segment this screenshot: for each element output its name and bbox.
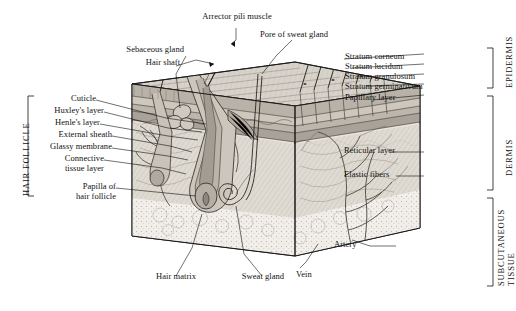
label-elastic-fibers: Elastic fibers xyxy=(344,170,389,180)
leader-arrowheads xyxy=(209,41,235,67)
label-pore-of-sweat-gland: Pore of sweat gland xyxy=(236,30,352,40)
bracket-subcutaneous xyxy=(487,198,493,286)
bracket-label-epidermis: EPIDERMIS xyxy=(505,36,515,88)
label-papilla-of-hair-follicle: Papilla of hair follicle xyxy=(48,182,116,201)
bracket-epidermis xyxy=(487,48,493,88)
label-sweat-gland: Sweat gland xyxy=(219,272,307,282)
bracket-label-dermis: DERMIS xyxy=(505,139,515,176)
label-sebaceous-gland: Sebaceous gland xyxy=(84,45,184,55)
label-reticular-layer: Reticular layer xyxy=(344,146,395,156)
bracket-label-hair-follicle: HAIR FOLLICLE xyxy=(22,123,32,196)
label-henles-layer: Henle's layer xyxy=(36,118,100,128)
label-artery: Artery xyxy=(334,240,356,250)
label-arrector-pili-muscle: Arrector pili muscle xyxy=(178,12,296,22)
label-huxleys-layer: Huxley's layer xyxy=(36,106,104,116)
label-connective-tissue-layer: Connective tissue layer xyxy=(36,154,104,173)
label-papillary-layer: Papillary layer xyxy=(345,93,396,103)
label-stratum-germinativum: Stratum germinativum xyxy=(345,82,423,92)
label-cuticle: Cuticle xyxy=(36,94,96,104)
label-hair-shaft: Hair shaft xyxy=(132,58,194,68)
bracket-dermis xyxy=(487,96,493,190)
label-glassy-membrane: Glassy membrane xyxy=(36,142,112,152)
label-external-sheath: External sheath xyxy=(36,130,112,140)
bracket-label-subcutaneous-tissue: SUBCUTANEOUS TISSUE xyxy=(497,209,516,286)
label-hair-matrix: Hair matrix xyxy=(132,272,220,282)
